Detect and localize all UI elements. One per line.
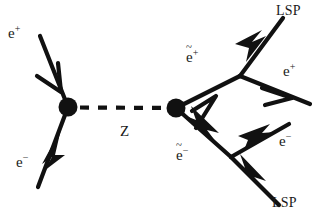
charge-sign-minus: − (286, 131, 292, 142)
label-selectron-minus: e− (176, 148, 188, 163)
incoming-electron-line (38, 107, 68, 187)
tilde-accent: e (176, 148, 183, 163)
outgoing-positron-line (240, 76, 310, 105)
production-vertex-right (167, 99, 186, 118)
label-selectron-plus: e+ (186, 50, 198, 65)
charge-sign-minus: − (183, 145, 189, 156)
lsp-top-line (235, 18, 283, 76)
label-incoming-electron: e− (16, 155, 28, 170)
tilde-accent: e (186, 50, 193, 65)
feynman-diagram-svg (0, 0, 318, 224)
incoming-positron-arrowhead (37, 63, 61, 92)
label-outgoing-electron: e− (279, 134, 291, 149)
charge-sign-minus: − (23, 152, 29, 163)
label-z-propagator: Z (120, 124, 129, 139)
lsp-bottom-arrowhead (237, 154, 266, 190)
charge-sign-plus: + (290, 61, 296, 72)
incoming-positron-line (37, 36, 68, 107)
production-vertex-left (59, 98, 78, 117)
charge-sign-plus: + (15, 23, 21, 34)
charge-sign-plus: + (193, 47, 199, 58)
label-incoming-positron: e+ (8, 26, 20, 41)
feynman-diagram-canvas: e+ e− Z e+ e− LSP e+ e− LSP (0, 0, 318, 224)
label-lsp-top: LSP (276, 4, 301, 18)
selectron-plus-line (176, 76, 240, 128)
z-propagator-line (80, 108, 166, 109)
label-lsp-bottom: LSP (272, 196, 297, 210)
label-outgoing-positron: e+ (283, 64, 295, 79)
